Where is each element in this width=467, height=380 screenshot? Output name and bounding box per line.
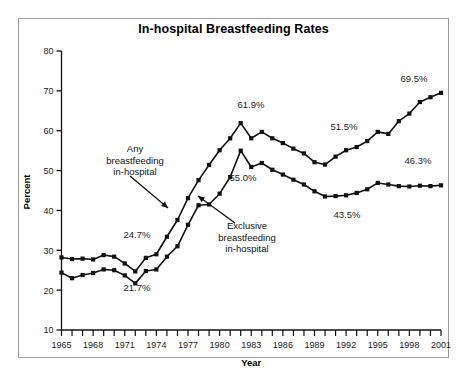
data-point-marker [80, 257, 84, 261]
x-tick-label: 1995 [368, 340, 388, 350]
annotation-line: in-hospital [113, 166, 156, 177]
data-point-marker [123, 261, 127, 265]
x-tick-label: 1998 [399, 340, 419, 350]
y-tick-label: 50 [43, 166, 53, 176]
label-69-5: 69.5% [401, 73, 428, 84]
data-point-marker [365, 139, 369, 143]
data-point-marker [291, 178, 295, 182]
data-point-marker [123, 273, 127, 277]
data-point-marker [154, 252, 158, 256]
data-point-marker [249, 136, 253, 140]
data-point-marker [133, 269, 137, 273]
figure-container: In-hospital Breastfeeding Rates 10203040… [0, 0, 467, 380]
data-point-marker [260, 130, 264, 134]
data-point-marker [91, 257, 95, 261]
y-tick-label: 40 [43, 206, 53, 216]
data-point-marker [355, 191, 359, 195]
any-breastfeeding-annotation: Anybreastfeedingin-hospital [106, 143, 168, 208]
data-point-marker [112, 268, 116, 272]
data-point-marker [333, 155, 337, 159]
data-point-marker [260, 161, 264, 165]
data-point-marker [323, 162, 327, 166]
data-point-marker [270, 136, 274, 140]
data-point-marker [165, 255, 169, 259]
x-tick-label: 1986 [273, 340, 293, 350]
data-point-marker [218, 148, 222, 152]
data-point-marker [186, 223, 190, 227]
data-point-marker [323, 194, 327, 198]
data-point-marker [333, 194, 337, 198]
data-point-marker [302, 182, 306, 186]
data-point-marker [175, 244, 179, 248]
annotation-line: Any [127, 143, 144, 154]
data-point-marker [386, 132, 390, 136]
y-tick-label: 80 [43, 46, 53, 56]
data-point-marker [102, 267, 106, 271]
label-43-5: 43.5% [334, 209, 361, 220]
annotation-arrow-line [198, 196, 235, 223]
data-point-marker [281, 141, 285, 145]
x-tick-label: 1989 [304, 340, 324, 350]
data-point-marker [302, 151, 306, 155]
data-point-marker [386, 182, 390, 186]
data-point-marker [397, 119, 401, 123]
y-axis: 1020304050607080 [43, 46, 61, 335]
data-point-marker [70, 276, 74, 280]
annotation-arrow-head [198, 196, 205, 202]
data-point-marker [281, 172, 285, 176]
data-point-marker [418, 184, 422, 188]
annotation-arrow-line [130, 176, 168, 208]
data-point-marker [154, 267, 158, 271]
x-axis-title: Year [241, 357, 261, 368]
x-tick-label: 1992 [336, 340, 356, 350]
x-tick-label: 1980 [210, 340, 230, 350]
data-point-marker [196, 178, 200, 182]
x-tick-label: 1977 [178, 340, 198, 350]
data-point-marker [407, 184, 411, 188]
data-point-marker [407, 111, 411, 115]
data-point-marker [228, 136, 232, 140]
y-axis-title: Percent [21, 174, 32, 210]
annotation-line: breastfeeding [218, 232, 276, 243]
label-46-3: 46.3% [405, 155, 432, 166]
data-point-marker [428, 184, 432, 188]
data-point-marker [239, 121, 243, 125]
x-tick-label: 1974 [146, 340, 166, 350]
x-tick-label: 1971 [115, 340, 135, 350]
x-tick-label: 2001 [431, 340, 451, 350]
data-point-marker [291, 147, 295, 151]
data-point-marker [70, 257, 74, 261]
data-point-marker [239, 149, 243, 153]
label-21-7: 21.7% [124, 282, 151, 293]
data-point-marker [428, 95, 432, 99]
y-tick-label: 10 [43, 325, 53, 335]
x-axis: 1965196819711974197719801983198619891992… [51, 330, 451, 350]
data-point-marker [249, 165, 253, 169]
data-point-marker [344, 193, 348, 197]
data-point-marker [207, 163, 211, 167]
data-series-group [59, 91, 443, 286]
data-point-marker [144, 256, 148, 260]
exclusive-breastfeeding-annotation: Exclusivebreastfeedingin-hospital [198, 196, 276, 254]
y-tick-label: 70 [43, 86, 53, 96]
data-point-marker [365, 187, 369, 191]
data-point-marker [112, 255, 116, 259]
data-point-marker [344, 148, 348, 152]
data-point-marker [59, 255, 63, 259]
label-51-5: 51.5% [331, 121, 358, 132]
data-point-marker [439, 183, 443, 187]
data-point-marker [175, 218, 179, 222]
data-point-marker [165, 235, 169, 239]
data-point-marker [376, 130, 380, 134]
label-24-7: 24.7% [124, 229, 151, 240]
data-point-marker [59, 271, 63, 275]
annotation-line: in-hospital [225, 243, 268, 254]
y-tick-label: 60 [43, 126, 53, 136]
data-point-marker [218, 192, 222, 196]
data-point-marker [196, 203, 200, 207]
data-point-marker [91, 271, 95, 275]
label-61-9: 61.9% [238, 99, 265, 110]
data-point-marker [312, 160, 316, 164]
data-point-marker [144, 269, 148, 273]
data-point-marker [376, 181, 380, 185]
